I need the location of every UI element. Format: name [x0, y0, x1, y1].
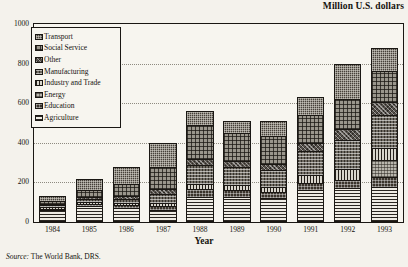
bar-segment-social — [76, 190, 103, 197]
bar-segment-social — [297, 115, 324, 143]
y-axis: 02004006008001000 — [0, 0, 33, 243]
bar-1984[interactable] — [39, 196, 66, 222]
bar-segment-other — [297, 143, 324, 151]
bar-segment-agriculture — [186, 197, 213, 222]
bar-segment-agriculture — [334, 188, 361, 222]
legend-swatch-icon — [35, 45, 43, 51]
bar-segment-agriculture — [76, 206, 103, 222]
legend-item-energy[interactable]: Energy — [35, 89, 118, 101]
legend-item-other[interactable]: Other — [35, 54, 118, 66]
bar-1992[interactable] — [334, 64, 361, 222]
x-axis-tick: 1992 — [340, 226, 355, 234]
bar-segment-social — [371, 71, 398, 103]
bar-segment-transport — [223, 121, 250, 133]
bar-segment-industry — [371, 148, 398, 160]
x-axis-tick: 1984 — [45, 226, 60, 234]
legend-item-manufacturing[interactable]: Manufacturing — [35, 66, 118, 78]
bar-segment-social — [334, 99, 361, 129]
bar-segment-other — [186, 159, 213, 166]
legend-item-industry[interactable]: Industry and Trade — [35, 77, 118, 89]
bar-segment-education — [186, 189, 213, 197]
chart-figure: Million U.S. dollars 02004006008001000 1… — [0, 0, 408, 267]
bar-segment-agriculture — [371, 187, 398, 222]
legend-item-education[interactable]: Education — [35, 101, 118, 113]
x-axis-tick: 1988 — [193, 226, 208, 234]
bar-1985[interactable] — [76, 179, 103, 223]
bar-segment-transport — [149, 143, 176, 167]
bar-segment-social — [149, 167, 176, 189]
bar-segment-industry — [297, 175, 324, 183]
bar-segment-agriculture — [149, 210, 176, 222]
bar-segment-social — [260, 136, 287, 164]
legend-swatch-icon — [35, 34, 43, 40]
legend-item-label: Manufacturing — [44, 68, 89, 76]
bar-segment-manufacturing — [223, 167, 250, 184]
bar-segment-manufacturing — [149, 194, 176, 204]
bar-segment-manufacturing — [334, 140, 361, 170]
source-text: The World Bank, DRS. — [31, 252, 101, 261]
legend-swatch-icon — [35, 103, 43, 109]
bar-1988[interactable] — [186, 111, 213, 222]
bar-segment-agriculture — [39, 210, 66, 222]
legend-swatch-icon — [35, 92, 43, 98]
bar-segment-transport — [260, 121, 287, 136]
legend-swatch-icon — [35, 115, 43, 121]
y-axis-tick: 1000 — [14, 20, 29, 28]
bar-segment-social — [186, 125, 213, 158]
source-label: Source: — [6, 252, 29, 261]
legend-item-label: Education — [44, 102, 74, 110]
bar-1986[interactable] — [113, 167, 140, 222]
bar-segment-transport — [334, 64, 361, 99]
legend-item-label: Energy — [44, 91, 66, 99]
x-axis-tick: 1989 — [229, 226, 244, 234]
bar-segment-industry — [334, 169, 361, 179]
legend-item-transport[interactable]: Transport — [35, 31, 118, 43]
bar-1990[interactable] — [260, 121, 287, 222]
legend-swatch-icon — [35, 69, 43, 75]
bar-1989[interactable] — [223, 121, 250, 222]
bar-segment-education — [334, 180, 361, 188]
x-axis-tick: 1990 — [266, 226, 281, 234]
legend-swatch-icon — [35, 80, 43, 86]
bar-segment-manufacturing — [260, 170, 287, 187]
x-axis-tick: 1985 — [82, 226, 97, 234]
bar-segment-education — [371, 177, 398, 187]
x-axis-tick: 1987 — [156, 226, 171, 234]
bar-segment-transport — [113, 167, 140, 185]
x-axis-tick: 1986 — [119, 226, 134, 234]
bar-segment-transport — [186, 111, 213, 125]
legend-item-label: Agriculture — [44, 114, 79, 122]
y-axis-tick: 600 — [18, 99, 29, 107]
bar-segment-agriculture — [260, 198, 287, 222]
bar-segment-manufacturing — [371, 115, 398, 149]
legend-item-agriculture[interactable]: Agriculture — [35, 112, 118, 124]
bar-segment-transport — [76, 179, 103, 190]
legend-item-social[interactable]: Social Service — [35, 43, 118, 55]
chart-legend: TransportSocial ServiceOtherManufacturin… — [31, 27, 121, 128]
bar-segment-other — [334, 129, 361, 140]
bar-segment-education — [297, 183, 324, 190]
bar-segment-manufacturing — [297, 151, 324, 175]
bar-1987[interactable] — [149, 143, 176, 222]
x-axis-tick: 1993 — [377, 226, 392, 234]
y-axis-tick: 0 — [25, 218, 29, 226]
bar-segment-agriculture — [297, 190, 324, 222]
legend-item-label: Industry and Trade — [44, 79, 101, 87]
bar-segment-social — [113, 184, 140, 195]
bar-segment-social — [223, 133, 250, 161]
legend-swatch-icon — [35, 57, 43, 63]
chart-title: Million U.S. dollars — [323, 1, 404, 11]
y-axis-tick: 200 — [18, 178, 29, 186]
bar-segment-education — [223, 190, 250, 197]
bar-segment-manufacturing — [186, 165, 213, 184]
bar-segment-transport — [371, 48, 398, 71]
bar-segment-agriculture — [113, 208, 140, 222]
legend-item-label: Transport — [44, 33, 73, 41]
bar-segment-transport — [297, 97, 324, 115]
bar-1993[interactable] — [371, 48, 398, 222]
source-note: Source: The World Bank, DRS. — [6, 252, 101, 261]
bar-segment-agriculture — [223, 197, 250, 222]
legend-item-label: Social Service — [44, 44, 87, 52]
bar-segment-energy — [371, 160, 398, 177]
bar-1991[interactable] — [297, 97, 324, 222]
